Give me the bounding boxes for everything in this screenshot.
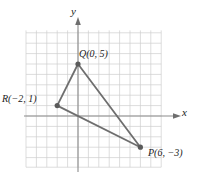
vertex-label-p: P(6, −3) [148, 148, 183, 158]
x-axis-label: x [182, 107, 187, 118]
vertex-label-r: R(−2, 1) [2, 94, 37, 104]
y-axis [75, 17, 81, 172]
vertex-r [55, 103, 60, 108]
vertex-label-q: Q(0, 5) [79, 49, 108, 59]
x-axis [24, 113, 181, 119]
y-axis-label: y [71, 6, 76, 17]
vertex-p [138, 145, 143, 150]
vertex-q [75, 61, 80, 66]
